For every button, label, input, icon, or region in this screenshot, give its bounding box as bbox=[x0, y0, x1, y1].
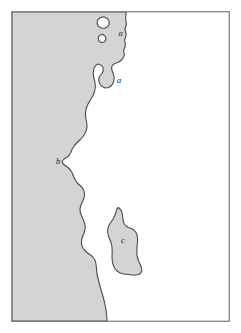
map-label-a-lower: a bbox=[117, 75, 121, 85]
coastline-map: a a b c bbox=[0, 0, 241, 333]
map-label-c: c bbox=[121, 235, 125, 245]
island-lake-upper bbox=[97, 17, 109, 28]
figure-root: a a b c bbox=[0, 0, 241, 333]
island-lake-lower bbox=[98, 34, 106, 42]
map-label-b: b bbox=[56, 156, 60, 166]
map-label-a-upper: a bbox=[118, 28, 122, 38]
